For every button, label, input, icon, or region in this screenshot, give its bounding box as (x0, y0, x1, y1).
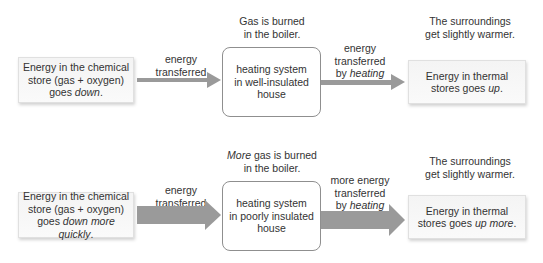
surroundings-note: The surroundings get slightly warmer. (405, 155, 535, 180)
line2-pre: stores goes (431, 82, 488, 94)
line3-em: down more quickly (58, 215, 114, 240)
arrow2-label-line2: transferred (320, 55, 400, 68)
line3-pre: goes (37, 215, 63, 227)
heating-system-line3: house (234, 88, 309, 101)
heater-note-em: More (227, 149, 251, 161)
chemical-store-line2: store (gas + oxygen) (23, 74, 129, 87)
arrow2-label-line1: energy (320, 42, 400, 55)
chemical-store-line1: Energy in the chemical (23, 61, 129, 74)
line2-post: . (513, 217, 516, 229)
line3-em: down (75, 86, 100, 98)
surroundings-note: The surroundings get slightly warmer. (405, 15, 535, 40)
line2-em: up (488, 82, 500, 94)
thermal-store-line1: Energy in thermal (426, 70, 508, 83)
heater-note-line1: More gas is burned (215, 149, 329, 162)
heating-system-box: heating system in well-insulated house (222, 47, 321, 117)
thermal-store-line1: Energy in thermal (418, 205, 517, 218)
chemical-store-line2: store (gas + oxygen) (19, 203, 133, 216)
heating-system-line1: heating system (229, 197, 314, 210)
chemical-store-line1: Energy in the chemical (19, 190, 133, 203)
line2-post: . (500, 82, 503, 94)
line2-em: up more (475, 217, 514, 229)
chemical-store-box: Energy in the chemical store (gas + oxyg… (18, 57, 134, 103)
heating-system-box: heating system in poorly insulated house (222, 181, 321, 251)
thermal-store-line2: stores goes up more. (418, 217, 517, 230)
heater-note: Gas is burned in the boiler. (222, 15, 322, 40)
heating-system-line1: heating system (234, 63, 309, 76)
surroundings-note-line1: The surroundings (405, 15, 535, 28)
heater-note-line2: in the boiler. (215, 162, 329, 175)
heating-transfer-arrow (321, 204, 405, 236)
chemical-store-box: Energy in the chemical store (gas + oxyg… (18, 192, 134, 238)
thermal-store-box: Energy in thermal stores goes up more. (408, 195, 526, 239)
arrow1-label-line1: energy (140, 184, 222, 197)
surroundings-note-line1: The surroundings (405, 155, 535, 168)
thermal-store-box: Energy in thermal stores goes up. (408, 60, 526, 104)
heating-system-line2: in well-insulated (234, 76, 309, 89)
heater-note-rest: Gas is burned (239, 15, 304, 27)
heating-system-line2: in poorly insulated (229, 210, 314, 223)
energy-transfer-arrow (137, 71, 221, 89)
line3-post: . (91, 228, 94, 240)
heater-note-line1: Gas is burned (222, 15, 322, 28)
arrow1-label-line1: energy (140, 53, 222, 66)
line3-post: . (100, 86, 103, 98)
arrow2-label-line1: more energy (320, 174, 400, 187)
line2-pre: stores goes (418, 217, 475, 229)
energy-transfer-arrow (137, 200, 221, 230)
heating-transfer-arrow (321, 73, 405, 91)
surroundings-note-line2: get slightly warmer. (405, 168, 535, 181)
heater-note: More gas is burned in the boiler. (215, 149, 329, 174)
arrow2-label-line2: transferred (320, 187, 400, 200)
surroundings-note-line2: get slightly warmer. (405, 28, 535, 41)
line3-pre: goes (49, 86, 75, 98)
thermal-store-line2: stores goes up. (426, 82, 508, 95)
heating-system-line3: house (229, 222, 314, 235)
chemical-store-line3: goes down more quickly. (19, 215, 133, 240)
heater-note-rest: gas is burned (251, 149, 317, 161)
chemical-store-line3: goes down. (23, 86, 129, 99)
heater-note-line2: in the boiler. (222, 28, 322, 41)
